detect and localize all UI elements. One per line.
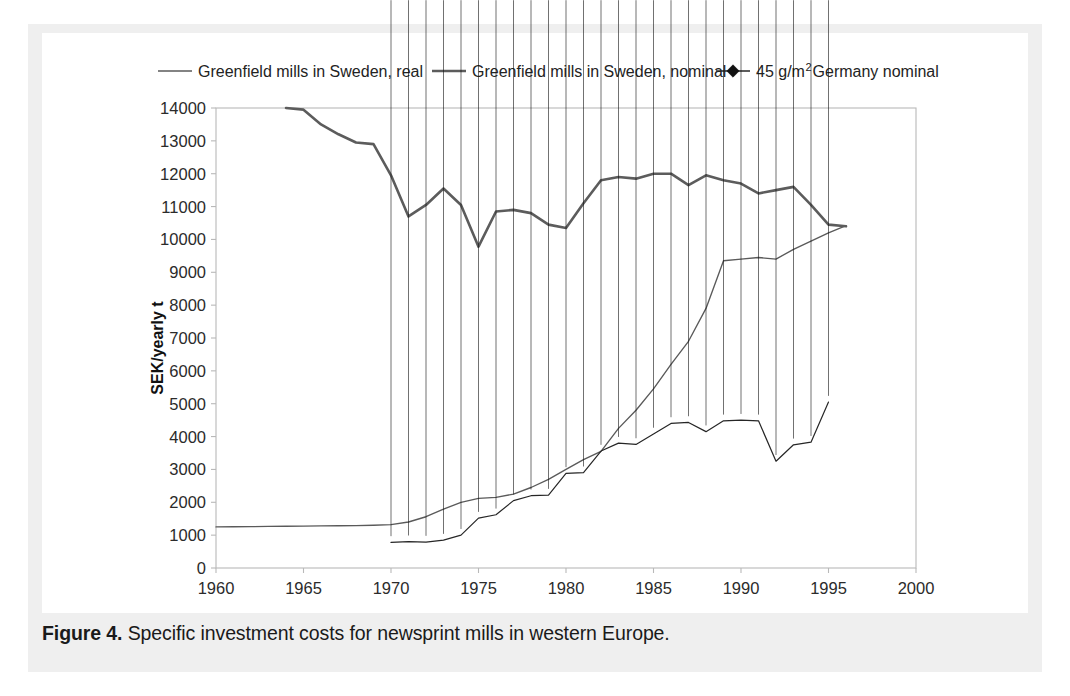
y-axis-tick-label: 9000 <box>169 263 206 281</box>
y-axis-title: SEK/yearly t <box>149 301 166 395</box>
legend-diamond-icon <box>727 65 739 77</box>
x-axis-tick-label: 1990 <box>723 579 760 597</box>
chart-series-group <box>216 0 846 542</box>
y-axis-tick-label: 10000 <box>160 230 206 248</box>
x-axis-tick-label: 2000 <box>898 579 935 597</box>
x-axis-tick-label: 1970 <box>373 579 410 597</box>
legend-label-suffix: Germany nominal <box>813 63 939 80</box>
y-axis-tick-label: 3000 <box>169 460 206 478</box>
legend-entry: Greenfield mills in Sweden, real <box>158 63 423 80</box>
chart-axes: 0100020003000400050006000700080009000100… <box>149 99 934 597</box>
y-axis-tick-label: 8000 <box>169 296 206 314</box>
legend-entry: 45 g/m2 Germany nominal <box>716 61 939 80</box>
chart-canvas: Greenfield mills in Sweden, realGreenfie… <box>0 0 1070 696</box>
series-line <box>391 402 829 542</box>
figure-container: Greenfield mills in Sweden, realGreenfie… <box>0 0 1070 696</box>
figure-caption-text: Specific investment costs for newsprint … <box>128 622 670 644</box>
x-axis-tick-label: 1995 <box>810 579 847 597</box>
y-axis-tick-label: 4000 <box>169 428 206 446</box>
x-axis-tick-label: 1980 <box>548 579 585 597</box>
chart-series <box>391 0 829 542</box>
legend-label: Greenfield mills in Sweden, real <box>198 63 423 80</box>
legend-entry: Greenfield mills in Sweden, nominal <box>432 63 726 80</box>
y-axis-tick-label: 13000 <box>160 132 206 150</box>
y-axis-tick-label: 12000 <box>160 165 206 183</box>
legend-label: 45 g/m <box>756 63 805 80</box>
y-axis-tick-label: 11000 <box>161 198 206 216</box>
y-axis-tick-label: 6000 <box>169 362 206 380</box>
y-axis-tick-label: 7000 <box>169 329 206 347</box>
x-axis-tick-label: 1965 <box>285 579 322 597</box>
y-axis-tick-label: 14000 <box>160 99 206 117</box>
legend-label: Greenfield mills in Sweden, nominal <box>472 63 726 80</box>
y-axis-tick-label: 5000 <box>169 395 206 413</box>
y-axis-tick-label: 0 <box>197 559 206 577</box>
legend-label-superscript: 2 <box>805 61 811 73</box>
figure-caption: Figure 4. Specific investment costs for … <box>42 622 1002 645</box>
x-axis-tick-label: 1975 <box>460 579 497 597</box>
x-axis-tick-label: 1985 <box>635 579 672 597</box>
y-axis-tick-label: 2000 <box>169 493 206 511</box>
y-axis-tick-label: 1000 <box>169 526 206 544</box>
x-axis-tick-label: 1960 <box>198 579 235 597</box>
figure-number: Figure 4. <box>42 622 122 644</box>
